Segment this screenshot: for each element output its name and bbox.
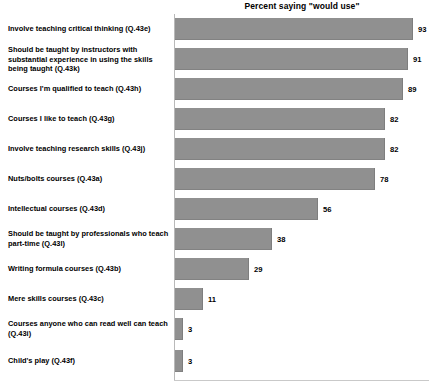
bar-track: 38 (175, 228, 272, 250)
category-label: Should be taught by professionals who te… (8, 229, 171, 248)
bar-row: Should be taught by professionals who te… (0, 224, 429, 254)
bar[interactable] (175, 168, 375, 190)
bar-track: 3 (175, 350, 183, 372)
bar[interactable] (175, 198, 318, 220)
bar-chart: Percent saying "would use" Involve teach… (0, 0, 429, 385)
bar-value-label: 82 (390, 115, 398, 124)
bar-row: Nuts/bolts courses (Q.43a) 78 (0, 164, 429, 194)
category-label: Child's play (Q.43f) (8, 356, 171, 366)
bar-value-label: 89 (408, 85, 416, 94)
bar-value-label: 82 (390, 145, 398, 154)
bar-track: 78 (175, 168, 375, 190)
bar-row: Writing formula courses (Q.43b) 29 (0, 254, 429, 284)
bar[interactable] (175, 108, 385, 130)
bar-track: 91 (175, 48, 408, 70)
category-label: Courses anyone who can read well can tea… (8, 319, 171, 338)
bar-value-label: 56 (323, 205, 331, 214)
bar[interactable] (175, 258, 249, 280)
category-label: Mere skills courses (Q.43c) (8, 294, 171, 304)
bar[interactable] (175, 228, 272, 250)
bar-row: Involve teaching research skills (Q.43j)… (0, 134, 429, 164)
bar-track: 89 (175, 78, 403, 100)
bar-row: Should be taught by instructors with sub… (0, 44, 429, 74)
bar-track: 11 (175, 288, 203, 310)
bar-track: 29 (175, 258, 249, 280)
bar-track: 82 (175, 108, 385, 130)
bar[interactable] (175, 350, 183, 372)
category-label: Courses I like to teach (Q.43g) (8, 114, 171, 124)
bar-value-label: 11 (208, 295, 216, 304)
bar-value-label: 93 (418, 25, 426, 34)
x-axis-line (174, 380, 429, 381)
bar-value-label: 29 (254, 265, 262, 274)
bar[interactable] (175, 288, 203, 310)
category-label: Writing formula courses (Q.43b) (8, 264, 171, 274)
plot-area: Involve teaching critical thinking (Q.43… (0, 14, 429, 382)
bar-row: Involve teaching critical thinking (Q.43… (0, 14, 429, 44)
bar-value-label: 3 (188, 325, 192, 334)
bar-value-label: 78 (380, 175, 388, 184)
category-label: Involve teaching critical thinking (Q.43… (8, 24, 171, 34)
bar-value-label: 91 (413, 55, 421, 64)
bar[interactable] (175, 318, 183, 340)
bar-row: Courses I'm qualified to teach (Q.43h) 8… (0, 74, 429, 104)
bar[interactable] (175, 78, 403, 100)
bar-track: 56 (175, 198, 318, 220)
bar-row: Child's play (Q.43f) 3 (0, 346, 429, 376)
bar[interactable] (175, 18, 413, 40)
bar-row: Intellectual courses (Q.43d) 56 (0, 194, 429, 224)
bar[interactable] (175, 48, 408, 70)
bar-row: Courses I like to teach (Q.43g) 82 (0, 104, 429, 134)
bar-row: Mere skills courses (Q.43c) 11 (0, 284, 429, 314)
bar-value-label: 38 (277, 235, 285, 244)
bar-row: Courses anyone who can read well can tea… (0, 314, 429, 344)
bar-track: 3 (175, 318, 183, 340)
category-label: Involve teaching research skills (Q.43j) (8, 144, 171, 154)
bar-track: 82 (175, 138, 385, 160)
category-label: Courses I'm qualified to teach (Q.43h) (8, 84, 171, 94)
bar-track: 93 (175, 18, 413, 40)
chart-title: Percent saying "would use" (175, 1, 429, 11)
bar[interactable] (175, 138, 385, 160)
category-label: Should be taught by instructors with sub… (8, 45, 171, 74)
category-label: Nuts/bolts courses (Q.43a) (8, 174, 171, 184)
bar-value-label: 3 (188, 357, 192, 366)
category-label: Intellectual courses (Q.43d) (8, 204, 171, 214)
